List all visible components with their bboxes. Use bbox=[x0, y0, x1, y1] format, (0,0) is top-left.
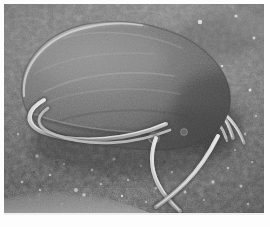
plate-bottom-edge bbox=[4, 213, 264, 215]
micrograph-image bbox=[4, 4, 264, 213]
image-vignette bbox=[4, 4, 264, 213]
micrograph-frame bbox=[4, 4, 264, 213]
sem-micrograph-figure bbox=[0, 0, 270, 227]
